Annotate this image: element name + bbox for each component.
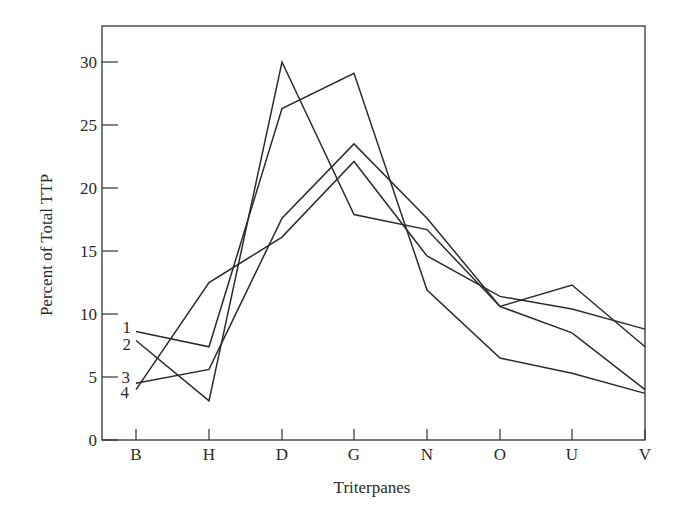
- x-tick-label: O: [494, 445, 506, 464]
- x-tick-label: U: [566, 445, 578, 464]
- series-line-3: [136, 144, 645, 390]
- series-label-2: 2: [123, 335, 132, 354]
- x-tick-label: B: [130, 445, 141, 464]
- y-axis-title: Percent of Total TTP: [37, 174, 56, 316]
- y-tick-label: 30: [80, 53, 97, 72]
- series-labels: 1234: [121, 318, 132, 402]
- y-tick-label: 25: [80, 116, 97, 135]
- x-tick-label: N: [421, 445, 433, 464]
- series-line-1: [136, 73, 645, 393]
- x-tick-label: V: [639, 445, 652, 464]
- line-chart: 051015202530 BHDGNOUV 1234 Triterpanes P…: [0, 0, 684, 515]
- y-axis-ticks: 051015202530: [80, 53, 118, 450]
- x-axis-ticks: BHDGNOUV: [130, 429, 652, 464]
- series-lines: [136, 62, 645, 401]
- y-tick-label: 20: [80, 179, 97, 198]
- y-tick-label: 5: [89, 368, 98, 387]
- series-line-2: [136, 62, 645, 401]
- plot-border: [102, 26, 645, 440]
- y-tick-label: 10: [80, 305, 97, 324]
- y-tick-label: 0: [89, 431, 98, 450]
- x-tick-label: D: [276, 445, 288, 464]
- x-axis-title: Triterpanes: [334, 478, 411, 497]
- series-line-4: [136, 162, 645, 390]
- x-tick-label: H: [203, 445, 215, 464]
- x-tick-label: G: [348, 445, 360, 464]
- plot-frame: [102, 26, 645, 440]
- series-label-4: 4: [121, 383, 130, 402]
- y-tick-label: 15: [80, 242, 97, 261]
